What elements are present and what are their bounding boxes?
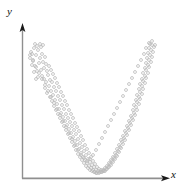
scatter-point (45, 81, 48, 84)
scatter-point (43, 67, 46, 70)
scatter-point (57, 95, 60, 98)
x-axis-label: x (171, 169, 176, 180)
scatter-point (110, 119, 113, 122)
scatter-point (142, 72, 145, 75)
scatter-point (66, 104, 69, 107)
scatter-point (92, 160, 95, 163)
scatter-point (35, 78, 38, 81)
scatter-plot-figure: y x (0, 0, 182, 196)
scatter-point (68, 128, 71, 131)
scatter-point (74, 122, 77, 125)
scatter-point (38, 72, 41, 75)
scatter-point (44, 87, 47, 90)
scatter-point (46, 70, 49, 73)
scatter-point (147, 72, 150, 75)
scatter-point (81, 146, 84, 149)
scatter-point (69, 121, 72, 124)
scatter-point (137, 65, 140, 68)
scatter-point (62, 95, 65, 98)
scatter-point (139, 83, 142, 86)
scatter-point (48, 65, 51, 68)
scatter-point (38, 62, 41, 65)
scatter-point (42, 61, 45, 64)
scatter-point (63, 108, 66, 111)
scatter-point (37, 49, 40, 52)
y-axis-label: y (7, 6, 12, 17)
scatter-point (41, 78, 44, 81)
scatter-point (147, 52, 150, 55)
scatter-point (113, 113, 116, 116)
scatter-point (59, 99, 62, 102)
scatter-point (60, 91, 63, 94)
scatter-point-group (29, 40, 157, 175)
scatter-point (55, 90, 58, 93)
scatter-point (53, 102, 56, 105)
scatter-point (136, 94, 139, 97)
scatter-point (71, 125, 74, 128)
scatter-point (128, 83, 131, 86)
scatter-point (107, 125, 110, 128)
scatter-point (54, 99, 57, 102)
scatter-point (131, 77, 134, 80)
scatter-point (98, 143, 101, 146)
scatter-point (50, 90, 53, 93)
scatter-point (31, 64, 34, 67)
scatter-point (39, 43, 42, 46)
scatter-point (56, 103, 59, 106)
scatter-point (54, 77, 57, 80)
scatter-point (44, 56, 47, 59)
scatter-point (116, 107, 119, 110)
scatter-point (71, 141, 74, 144)
scatter-point (45, 63, 48, 66)
scatter-point (72, 117, 75, 120)
scatter-point (132, 109, 135, 112)
scatter-point (77, 153, 80, 156)
scatter-point (48, 85, 51, 88)
scatter-point (93, 166, 96, 169)
scatter-point (76, 126, 79, 129)
scatter-point (53, 86, 56, 89)
scatter-point (40, 69, 43, 72)
scatter-point (33, 71, 36, 74)
scatter-point (119, 101, 122, 104)
scatter-point (42, 44, 45, 47)
scatter-point (67, 117, 70, 120)
scatter-point (145, 62, 148, 65)
scatter-point (85, 154, 88, 157)
scatter-point (146, 57, 149, 60)
scatter-point (29, 57, 32, 60)
scatter-point (34, 43, 37, 46)
scatter-point (145, 47, 148, 50)
scatter-point (79, 142, 82, 145)
scatter-point (139, 91, 142, 94)
scatter-point (140, 59, 143, 62)
scatter-point (53, 105, 56, 108)
scatter-point (41, 53, 44, 56)
scatter-point (143, 53, 146, 56)
scatter-point (148, 47, 151, 50)
scatter-point (68, 109, 71, 112)
scatter-point (89, 161, 92, 164)
scatter-point (39, 57, 42, 60)
scatter-point (75, 133, 78, 136)
scatter-point (94, 163, 97, 166)
scatter-point (136, 109, 139, 112)
scatter-point (92, 154, 95, 157)
scatter-point (65, 113, 68, 116)
scatter-point (83, 162, 86, 165)
scatter-point (101, 137, 104, 140)
scatter-point (122, 95, 125, 98)
scatter-point (151, 40, 154, 43)
scatter-point (62, 116, 65, 119)
scatter-point (70, 113, 73, 116)
scatter-point (47, 74, 50, 77)
scatter-point (44, 84, 47, 87)
scatter-point (41, 75, 44, 78)
scatter-point (104, 131, 107, 134)
scatter-point (59, 117, 62, 120)
scatter-point (142, 88, 145, 91)
scatter-point (83, 150, 86, 153)
scatter-point (88, 152, 91, 155)
scatter-point (84, 144, 87, 147)
scatter-point (74, 140, 77, 143)
